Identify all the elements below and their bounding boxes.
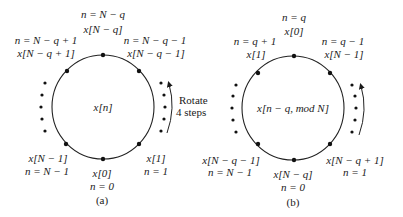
panel-a-caption: (a): [96, 194, 108, 206]
panel-a-upper-left-x-label: x[N − q + 1]: [17, 47, 75, 59]
panel-b-lower-left-x-label: x[N − q − 1]: [202, 154, 260, 166]
panel-b-top-x-label: x[0]: [285, 25, 304, 37]
panel-a-point-bottom: [101, 157, 105, 161]
panel-b-lower-right-x-label: x[N − q + 1]: [326, 154, 384, 166]
panel-b-bottom-n-label: n = 0: [281, 181, 305, 193]
panel-b-caption: (b): [287, 196, 300, 208]
panel-a-lower-left-n-label: n = N − 1: [25, 165, 69, 177]
panel-a-lower-left-x-label: x[N − 1]: [28, 152, 67, 164]
panel-b-lower-right-n-label: n = 1: [343, 166, 367, 178]
panel-b-point-bottom: [292, 158, 296, 162]
panel-b-center-label: x[n − q, mod N]: [257, 102, 329, 114]
panel-b-upper-right-x-label: x[N − 1]: [324, 48, 363, 60]
panel-b-bottom-x-label: x[N − q]: [273, 168, 312, 180]
panel-b-left-ellipsis: [230, 83, 237, 133]
panel-a-point-lower-left: [64, 142, 68, 146]
panel-b-right-ellipsis: [350, 83, 357, 133]
panel-b-point-upper-left: [256, 71, 260, 75]
panel-a-center-label: x[n]: [94, 101, 113, 113]
panel-a-point-top: [101, 53, 105, 57]
panel-b-upper-left-n-label: n = q + 1: [234, 35, 276, 47]
panel-b-upper-right-n-label: n = q − 1: [322, 35, 364, 47]
rotation-label-line2: 4 steps: [176, 106, 206, 118]
panel-a-lower-right-n-label: n = 1: [144, 165, 168, 177]
panel-b-upper-left-x-label: x[1]: [247, 48, 266, 60]
panel-b-rotation-arrow: [359, 86, 364, 135]
panel-a-left-ellipsis: [39, 81, 46, 132]
panel-a-upper-right-n-label: n = N − q − 1: [124, 34, 187, 46]
panel-a-point-upper-right: [137, 69, 141, 73]
panel-a-rotation-arrow: [167, 84, 172, 133]
panel-a-top-x-label: x[N − q]: [83, 23, 122, 35]
panel-a-bottom-x-label: x[0]: [93, 167, 112, 179]
panel-a-right-ellipsis: [159, 81, 166, 132]
panel-b-top-n-label: n = q: [282, 11, 306, 23]
panel-b-point-upper-right: [328, 71, 332, 75]
panel-a-lower-right-x-label: x[1]: [147, 152, 166, 164]
panel-a-top-n-label: n = N − q: [81, 8, 125, 20]
panel-b-point-top: [292, 54, 296, 58]
panel-a-upper-left-n-label: n = N − q + 1: [15, 34, 78, 46]
panel-a-upper-right-x-label: x[N − q − 1]: [127, 47, 185, 59]
panel-b-point-lower-left: [256, 142, 260, 146]
panel-a-bottom-n-label: n = 0: [90, 180, 114, 192]
panel-b-point-lower-right: [328, 142, 332, 146]
rotation-label-line1: Rotate: [179, 94, 208, 106]
panel-a-point-upper-left: [65, 69, 69, 73]
panel-a-point-lower-right: [137, 142, 141, 146]
panel-b-lower-left-n-label: n = N − 1: [208, 166, 252, 178]
